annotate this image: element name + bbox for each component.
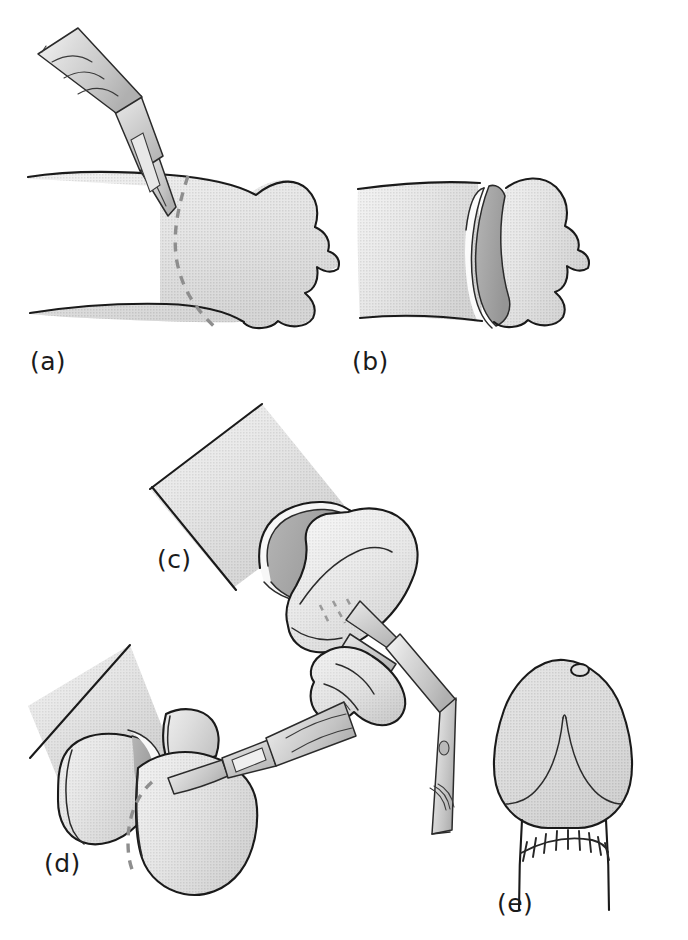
panel-b-illustration: (b) (352, 178, 589, 376)
surgical-figure: (a) (b) (0, 0, 688, 940)
panel-a-scalpel (38, 28, 176, 216)
panel-d-illustration: (d) (28, 645, 356, 895)
panel-b-proximal-texture (358, 182, 482, 322)
panel-e-label: (e) (497, 889, 533, 918)
panel-b-proximal-skin (358, 182, 482, 322)
panel-a-label: (a) (30, 347, 66, 376)
panel-d-scalpel-handle (266, 702, 356, 766)
panel-e-shaft-right-edge (606, 820, 609, 910)
panel-d-label: (d) (44, 849, 81, 878)
figure-canvas: (a) (b) (0, 0, 688, 940)
panel-e-illustration: (e) (494, 660, 632, 918)
panel-c-glans (286, 508, 417, 652)
panel-c-label: (c) (157, 545, 191, 574)
panel-b-label: (b) (352, 347, 389, 376)
panel-a-illustration: (a) (28, 28, 339, 376)
